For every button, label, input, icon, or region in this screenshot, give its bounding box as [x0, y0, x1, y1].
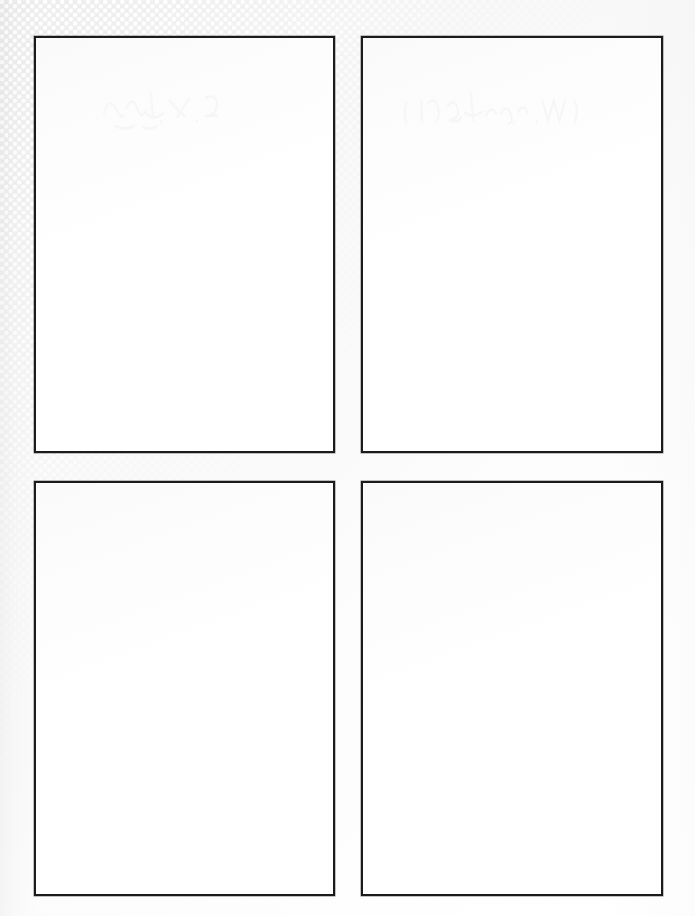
bleed-through-mark	[72, 75, 298, 141]
panel-paper-fill	[363, 483, 661, 894]
panel-paper-fill	[36, 38, 333, 451]
panel-paper-fill	[363, 38, 661, 451]
document-page	[0, 0, 695, 916]
panel-top-left[interactable]	[34, 36, 335, 453]
panel-bottom-right[interactable]	[361, 481, 663, 896]
panel-top-right[interactable]	[361, 36, 663, 453]
panel-paper-fill	[36, 483, 333, 894]
panel-bottom-left[interactable]	[34, 481, 335, 896]
bleed-through-mark	[399, 75, 625, 141]
